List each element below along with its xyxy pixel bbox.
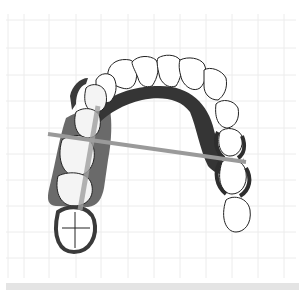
bottom-bar [6,283,299,290]
grid [6,14,296,278]
dental-diagram [0,0,299,295]
left-clasp [56,207,95,252]
right-posterior-teeth [216,101,251,232]
